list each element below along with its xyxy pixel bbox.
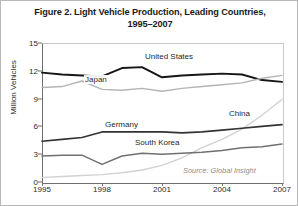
x-tick-label: 1995 bbox=[33, 185, 51, 194]
source-note: Source: Global Insight bbox=[182, 166, 257, 175]
x-tick-label: 1998 bbox=[93, 185, 111, 194]
x-tick-label: 2004 bbox=[213, 185, 231, 194]
figure-container: Figure 2. Light Vehicle Production, Lead… bbox=[0, 0, 298, 206]
series-label-south-korea: South Korea bbox=[134, 138, 180, 147]
series-label-germany: Germany bbox=[104, 120, 139, 129]
series-label-china: China bbox=[228, 109, 251, 118]
series-label-japan: Japan bbox=[84, 75, 108, 84]
series-label-united-states: United States bbox=[144, 52, 194, 61]
series-line-united-states bbox=[42, 67, 282, 82]
x-tick-label: 2007 bbox=[273, 185, 291, 194]
x-tick-label: 2001 bbox=[153, 185, 171, 194]
